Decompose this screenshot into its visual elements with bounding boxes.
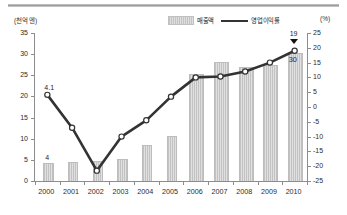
left-axis-tick-label: 35: [6, 29, 28, 36]
right-axis-tick: [307, 77, 311, 78]
line-last-value-label: 19: [290, 30, 298, 37]
right-axis-tick-label: -5: [313, 118, 335, 125]
x-axis-tick: [159, 181, 160, 185]
right-axis-tick: [307, 122, 311, 123]
right-axis-tick: [307, 107, 311, 108]
right-axis-tick-label: 20: [313, 44, 335, 51]
line-marker-2010: [292, 48, 297, 53]
left-axis-tick-label: 15: [6, 114, 28, 121]
line-marker-2009: [267, 60, 272, 65]
right-axis-tick-label: 5: [313, 88, 335, 95]
right-axis-tick: [307, 166, 311, 167]
line-marker-2005: [168, 94, 173, 99]
down-triangle-icon: [290, 39, 298, 44]
line-first-value-label: 4.1: [44, 84, 54, 91]
right-axis-tick-label: 25: [313, 29, 335, 36]
left-axis-tick-label: 30: [6, 50, 28, 57]
line-marker-2002: [94, 168, 99, 173]
x-axis-tick: [258, 181, 259, 185]
x-axis-tick: [84, 181, 85, 185]
right-axis-tick-label: 15: [313, 59, 335, 66]
right-axis-tick: [307, 63, 311, 64]
x-axis-tick: [307, 181, 308, 185]
legend-label-line-series: 영업이익률: [251, 16, 280, 25]
legend-item-line-series: 영업이익률: [221, 16, 280, 25]
right-axis-tick: [307, 137, 311, 138]
bar-first-value-label: 4: [45, 154, 49, 161]
legend-label-bar-series: 매출액: [197, 16, 214, 25]
line-marker-2000: [45, 92, 50, 97]
line-series-path: [35, 33, 307, 181]
left-axis-tick-label: 10: [6, 135, 28, 142]
x-axis-tick: [35, 181, 36, 185]
line-marker-2008: [243, 69, 248, 74]
bar-last-value-label: 30: [289, 55, 297, 64]
x-axis-tick: [233, 181, 234, 185]
right-axis-tick-label: -10: [313, 133, 335, 140]
legend-item-bar-series: 매출액: [168, 16, 214, 25]
x-axis-tick: [134, 181, 135, 185]
right-axis-tick-label: -25: [313, 177, 335, 184]
line-swatch-icon: [221, 20, 248, 22]
right-axis-tick: [307, 33, 311, 34]
right-axis-tick-label: -20: [313, 162, 335, 169]
plot-inner: [35, 33, 307, 181]
bar-swatch-icon: [168, 16, 194, 25]
line-marker-2004: [144, 118, 149, 123]
x-axis-tick: [282, 181, 283, 185]
right-axis-tick-label: 0: [313, 103, 335, 110]
right-axis-tick: [307, 151, 311, 152]
left-axis-tick-label: 0: [6, 177, 28, 184]
chart-figure: (천억 엔) (%) 매출액 영업이익률 05101520253035-25-2…: [0, 0, 347, 215]
x-axis-tick: [208, 181, 209, 185]
line-marker-2001: [69, 125, 74, 130]
line-marker-2007: [218, 74, 223, 79]
left-axis-tick-label: 5: [6, 156, 28, 163]
x-axis-tick: [109, 181, 110, 185]
chart-legend: 매출액 영업이익률: [168, 16, 280, 25]
line-marker-2003: [119, 134, 124, 139]
line-marker-2006: [193, 75, 198, 80]
left-axis-tick-label: 25: [6, 71, 28, 78]
right-axis-tick: [307, 92, 311, 93]
right-axis-tick-label: -15: [313, 147, 335, 154]
x-axis-tick: [183, 181, 184, 185]
top-divider-rule: [8, 4, 339, 7]
x-axis-tick: [60, 181, 61, 185]
right-axis-tick: [307, 48, 311, 49]
x-axis-tick-label: 2010: [277, 187, 311, 196]
plot-area: [34, 33, 308, 182]
right-axis-unit-label: (%): [320, 15, 330, 22]
left-axis-unit-label: (천억 엔): [14, 15, 37, 25]
left-axis-tick-label: 20: [6, 92, 28, 99]
right-axis-tick-label: 10: [313, 73, 335, 80]
